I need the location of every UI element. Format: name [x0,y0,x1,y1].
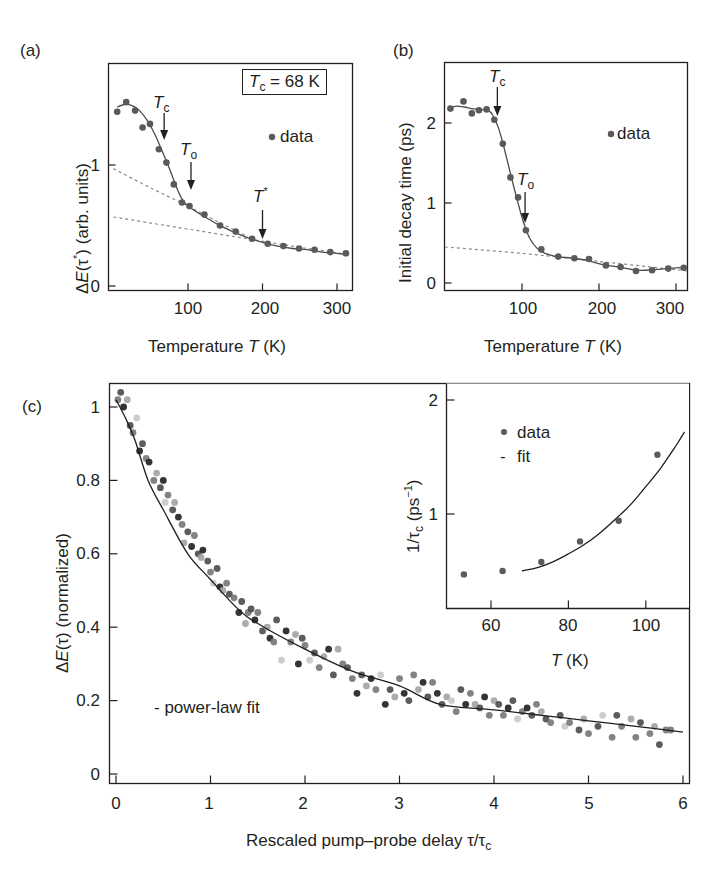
data-point [507,174,514,181]
data-point [311,246,318,253]
data-point [169,506,176,513]
data-point [156,146,163,153]
data-point [171,181,178,188]
panel-b-arrows [493,87,529,223]
data-point [160,477,167,484]
data-point [609,734,616,741]
panel-a-data-points [114,99,349,257]
inset-ytick: 1 [429,506,438,523]
data-point [469,110,476,117]
data-point [343,250,350,257]
data-point [231,594,238,601]
data-point [150,477,157,484]
panel-c-xtick: 6 [678,795,687,812]
panel-c-ytick: 0.4 [76,619,100,636]
data-point [191,532,198,539]
data-point [495,701,502,708]
data-point [632,734,639,741]
data-point [157,484,164,491]
data-point [396,675,403,682]
data-point [500,141,507,148]
data-point [270,639,277,646]
data-point [500,712,507,719]
panel-a-annotation-tc: Tc [153,94,169,111]
data-point [514,716,521,723]
data-point [296,245,303,252]
data-point [577,538,583,544]
data-point [377,672,384,679]
data-point [628,716,635,723]
data-point [273,617,280,624]
data-point [680,265,687,272]
data-point [124,396,131,403]
data-point [481,694,488,701]
data-point [576,727,583,734]
panel-c-ytick: 0.2 [76,692,100,709]
inset-xlabel: T (K) [551,652,589,669]
data-point [200,547,207,554]
data-point [448,697,455,704]
inset-background [446,384,689,609]
panel-c-xtick: 0 [111,795,120,812]
panel-b-annotation-tc: Tc [489,68,505,85]
data-point [453,708,460,715]
panel-b-xtick: 200 [588,300,616,317]
data-point [382,701,389,708]
panel-a-frame [109,64,353,291]
data-point [462,701,469,708]
data-point [633,268,640,275]
data-point [186,203,193,210]
data-point [123,99,130,106]
data-point [248,606,255,613]
panel-c-ytick: 1 [91,399,100,416]
panel-b-fit-curve [449,106,688,270]
data-point [330,672,337,679]
panel-a-legend-label: data [280,128,313,145]
data-point [335,646,342,653]
inset-legend-fit-mark: - [500,448,506,465]
data-point [214,565,221,572]
panel-c-ytick: 0.6 [76,545,100,562]
panel-b-annotation-to: To [517,171,534,188]
data-point [283,628,290,635]
panel-c-legend-fit: - power-law fit [154,699,260,716]
inset-xtick: 80 [559,617,578,634]
data-point [499,568,505,574]
data-point [538,246,545,253]
data-point [278,657,285,664]
data-point [486,712,493,719]
panel-a-xtick: 100 [174,300,202,317]
data-point [491,117,498,124]
data-point [595,723,602,730]
data-point [415,686,422,693]
panel-a-dashed-lines [114,169,349,255]
data-point [649,267,656,274]
data-point [363,683,370,690]
data-point [153,470,160,477]
panel-c-ytick: 0 [91,766,100,783]
data-point [349,675,356,682]
figure-canvas [0,0,721,885]
data-point [566,719,573,726]
data-point [483,106,490,113]
inset-ylabel: 1/τc (ps−1) [405,480,422,553]
data-point [114,109,121,116]
inset-ytick: 2 [429,392,438,409]
data-point [316,664,323,671]
data-point [188,543,195,550]
panel-b-ylabel: Initial decay time (ps) [397,122,414,283]
panel-a-plot [109,64,353,291]
panel-a-label: (a) [20,42,41,59]
data-point [184,528,191,535]
panel-c-xtick: 1 [204,795,213,812]
panel-b-ticks [445,123,677,291]
panel-c-ytick: 0.8 [76,472,100,489]
data-point [373,686,380,693]
to-arrow-head [187,180,195,190]
data-point [325,646,332,653]
data-point [523,227,530,234]
panel-b-ytick: 1 [427,195,436,212]
data-point [201,211,208,218]
inset-legend-fit: fit [517,448,530,465]
data-point [586,256,593,263]
